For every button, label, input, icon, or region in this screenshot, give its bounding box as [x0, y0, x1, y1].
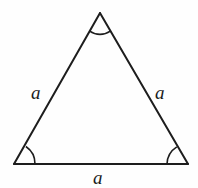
side-label-base: a — [93, 168, 103, 187]
angle-arc-bottom-right — [167, 147, 177, 164]
side-label-left: a — [31, 83, 41, 102]
angle-arc-apex — [90, 31, 111, 34]
side-label-right: a — [155, 83, 165, 102]
triangle-side-right — [100, 13, 188, 164]
triangle-graphic — [0, 0, 198, 188]
triangle-side-left — [14, 13, 100, 164]
angle-arc-bottom-left — [26, 147, 35, 165]
triangle-diagram: a a a — [0, 0, 198, 188]
